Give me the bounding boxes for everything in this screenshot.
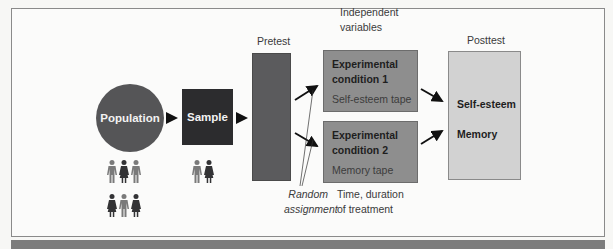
woman-icon (107, 194, 117, 217)
man-icon (192, 160, 202, 183)
arrows-layer (0, 0, 613, 249)
random-assignment-pointer-2 (302, 140, 313, 186)
arrow-condition-1-to-posttest (421, 89, 442, 101)
woman-icon (131, 194, 141, 217)
woman-icon (204, 160, 214, 183)
arrow-condition-2-to-posttest (421, 131, 442, 144)
people-icons (105, 160, 225, 226)
man-icon (119, 194, 129, 217)
man-icon (131, 160, 141, 183)
arrow-pretest-to-condition-1 (295, 86, 317, 100)
man-icon (107, 160, 117, 183)
woman-icon (119, 160, 129, 183)
